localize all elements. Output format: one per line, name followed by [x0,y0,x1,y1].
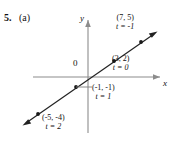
annotation-point-t-1: (-1, -1) t = 1 [92,83,115,101]
annotation-coordinates: (3, 2) [112,54,129,63]
x-axis [33,74,160,80]
data-point-t2 [36,112,40,116]
x-axis-label: x [163,78,167,88]
annotation-point-t-0: (3, 2) t = 0 [112,54,129,72]
line-segment [26,34,154,123]
y-axis-label: y [80,13,84,23]
annotation-parameter: t = 1 [92,92,115,101]
data-point-tminus1 [139,40,143,44]
y-axis-arrowhead [85,20,91,27]
figure-container: 5. (a) y x 0 (7, 5 [0,0,176,143]
origin-label: 0 [73,58,78,68]
annotation-point-t-2: (-5, -4) t = 2 [42,113,65,131]
annotation-coordinates: (-5, -4) [42,113,65,122]
annotation-coordinates: (7, 5) [116,13,134,22]
x-axis-arrowhead [153,74,160,80]
annotation-point-t-minus-1: (7, 5) t = -1 [116,13,134,31]
annotation-parameter: t = 2 [42,122,65,131]
annotation-parameter: t = -1 [116,22,134,31]
parametric-line-plot [0,0,176,143]
annotation-parameter: t = 0 [112,63,129,72]
data-line [23,32,158,126]
annotation-coordinates: (-1, -1) [92,83,115,92]
